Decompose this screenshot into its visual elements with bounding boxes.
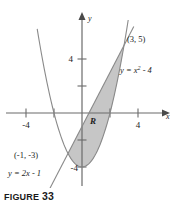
point-label-upper: (3, 5) bbox=[127, 34, 146, 44]
y-tick-label-pos4: 4 bbox=[69, 54, 74, 64]
x-tick-label-neg4: -4 bbox=[22, 120, 30, 130]
graph-svg: y x -4 4 4 -4 R (3, 5) (-1, -3) y = x2 -… bbox=[0, 0, 174, 188]
figure-container: y x -4 4 4 -4 R (3, 5) (-1, -3) y = x2 -… bbox=[0, 0, 174, 209]
region-label-R: R bbox=[89, 116, 96, 126]
point-label-lower: (-1, -3) bbox=[14, 150, 38, 160]
parabola-eq-tail: - 4 bbox=[141, 65, 153, 75]
y-tick-label-neg4: -4 bbox=[71, 163, 79, 173]
line-equation-label: y = 2x - 1 bbox=[7, 168, 41, 178]
y-axis-arrowhead bbox=[79, 12, 86, 20]
parabola-eq-base: y = x bbox=[119, 65, 138, 75]
x-axis-label: x bbox=[165, 112, 170, 121]
parabola-equation-label: y = x2 - 4 bbox=[119, 65, 153, 75]
figure-caption: FIGURE 33 bbox=[4, 190, 54, 202]
figure-caption-word: FIGURE bbox=[4, 192, 39, 202]
figure-caption-number: 33 bbox=[42, 190, 54, 202]
shaded-region-R-fill bbox=[68, 46, 124, 168]
plot-area: y x -4 4 4 -4 R (3, 5) (-1, -3) y = x2 -… bbox=[0, 0, 174, 188]
y-axis-label: y bbox=[87, 14, 92, 23]
x-tick-label-pos4: 4 bbox=[136, 120, 141, 130]
